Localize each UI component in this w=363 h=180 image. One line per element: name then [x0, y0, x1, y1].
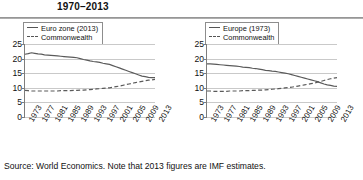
y-axis-tick-label: 25 [12, 39, 22, 49]
legend-item: Commonwealth [27, 33, 98, 42]
solid-line-swatch-icon [27, 27, 38, 28]
dashed-line-swatch-icon [27, 36, 38, 37]
y-axis-tick-label: 15 [194, 68, 204, 78]
x-axis-labels-left: 1973197719811985198919931997200120052009… [24, 119, 154, 159]
legend-label: Europe (1973) [223, 24, 270, 33]
y-axis-tick-label: 25 [194, 39, 204, 49]
data-line [207, 64, 337, 86]
legend-left: Euro zone (2013) Commonwealth [23, 22, 103, 45]
x-axis-labels-right: 1973197719811985198919931997200120052009… [206, 119, 336, 159]
header-divider [0, 17, 363, 19]
y-axis-tick-label: 10 [12, 83, 22, 93]
dashed-line-swatch-icon [209, 36, 220, 37]
legend-item: Commonwealth [209, 33, 274, 42]
y-axis-tick-label: 0 [17, 112, 22, 122]
y-axis-tick [22, 117, 25, 118]
y-axis-tick-label: 20 [194, 54, 204, 64]
y-axis-tick-label: 15 [12, 68, 22, 78]
y-axis-tick-label: 10 [194, 83, 204, 93]
source-note: Source: World Economics. Note that 2013 … [4, 161, 266, 171]
data-line [207, 78, 337, 92]
legend-label: Euro zone (2013) [41, 24, 98, 33]
legend-item: Europe (1973) [209, 24, 274, 33]
chart-panel-left: Euro zone (2013) Commonwealth 0510152025… [0, 22, 178, 152]
y-axis-tick-label: 5 [17, 97, 22, 107]
legend-right: Europe (1973) Commonwealth [205, 22, 279, 45]
data-line [25, 53, 155, 78]
y-axis-tick-label: 20 [12, 54, 22, 64]
page-title: 1970–2013 [57, 1, 109, 12]
y-axis-tick-label: 5 [199, 97, 204, 107]
data-line [25, 79, 155, 91]
solid-line-swatch-icon [209, 27, 220, 28]
legend-label: Commonwealth [223, 33, 274, 42]
chart-panel-right: Europe (1973) Commonwealth 0510152025 19… [176, 22, 363, 152]
legend-label: Commonwealth [41, 33, 92, 42]
y-axis-tick [204, 117, 207, 118]
legend-item: Euro zone (2013) [27, 24, 98, 33]
y-axis-tick-label: 0 [199, 112, 204, 122]
